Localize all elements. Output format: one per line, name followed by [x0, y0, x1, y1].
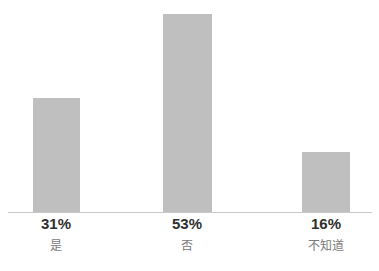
bar-chart: 31% 是 53% 否 16% 不知道	[0, 0, 379, 271]
category-label-no: 否	[147, 236, 227, 256]
axis-label-group-dont-know: 16% 不知道	[286, 213, 366, 256]
plot-area	[0, 0, 379, 213]
bar-no	[163, 14, 212, 213]
axis-label-group-yes: 31% 是	[16, 213, 96, 256]
value-label-dont-know: 16%	[286, 213, 366, 235]
category-label-yes: 是	[16, 236, 96, 256]
category-label-dont-know: 不知道	[286, 236, 366, 256]
value-label-yes: 31%	[16, 213, 96, 235]
axis-label-group-no: 53% 否	[147, 213, 227, 256]
category-axis-labels: 31% 是 53% 否 16% 不知道	[0, 213, 379, 271]
bar-yes	[33, 98, 80, 213]
bar-dont-know	[302, 152, 350, 213]
value-label-no: 53%	[147, 213, 227, 235]
